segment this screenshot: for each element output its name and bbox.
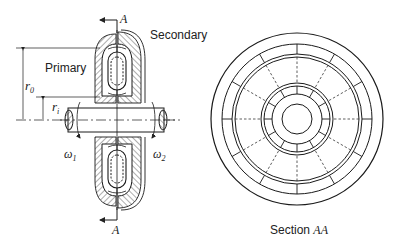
section-aa-view (211, 33, 383, 205)
caption-prefix: Section (270, 223, 313, 237)
label-primary: Primary (45, 62, 86, 74)
inner-radius-label: ri (52, 100, 59, 116)
omega-output-label: ω2 (153, 148, 165, 163)
outer-radius-subscript: 0 (30, 86, 34, 95)
coupling-cross-section (16, 20, 180, 220)
omega-output-subscript: 2 (161, 154, 165, 163)
dashed-radial-lines (235, 57, 359, 181)
omega-input-label: ω1 (64, 148, 76, 163)
label-secondary: Secondary (150, 29, 207, 41)
caption-section-id: AA (313, 223, 328, 237)
inner-radius-subscript: i (57, 107, 59, 116)
section-label-top: A (120, 13, 127, 25)
outer-radius-label: r0 (25, 79, 34, 95)
omega-input-subscript: 1 (72, 154, 76, 163)
section-arrow-top (100, 20, 117, 33)
section-aa-caption: Section AA (270, 224, 328, 236)
section-label-bottom: A (112, 224, 119, 236)
section-arrow-bottom (100, 207, 117, 220)
